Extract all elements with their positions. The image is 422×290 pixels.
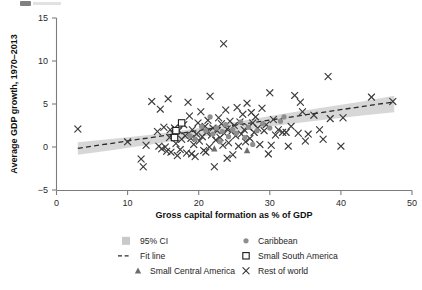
- data-point: [268, 142, 274, 148]
- data-point: [281, 114, 286, 119]
- data-point: [234, 131, 239, 136]
- x-tick-label: 10: [123, 198, 133, 208]
- data-point: [154, 128, 160, 134]
- data-point: [168, 149, 174, 155]
- legend-label: Fit line: [140, 251, 166, 261]
- data-point: [259, 105, 265, 111]
- y-tick-label: 0: [43, 142, 48, 152]
- data-point: [211, 164, 217, 170]
- data-point: [157, 106, 163, 112]
- data-point: [186, 113, 192, 119]
- data-point: [178, 120, 184, 126]
- circle-marker-icon: [243, 238, 248, 243]
- data-point: [211, 145, 217, 151]
- data-point: [267, 125, 272, 130]
- data-point: [297, 99, 303, 105]
- y-axis-title: Average GDP growth, 1970–2013: [9, 34, 19, 174]
- data-point: [292, 92, 298, 98]
- data-point: [210, 132, 215, 137]
- data-point: [265, 151, 271, 157]
- data-point: [288, 123, 294, 129]
- open-square-marker-icon: [243, 253, 249, 259]
- data-point: [235, 143, 241, 149]
- y-tick-label: 15: [38, 13, 48, 23]
- ci-swatch-icon: [122, 237, 130, 245]
- legend-label: Caribbean: [258, 236, 298, 246]
- data-point: [173, 140, 179, 146]
- data-point: [240, 111, 246, 117]
- chart-figure: 01020304050−5051015 Gross capital format…: [0, 0, 422, 290]
- x-tick-label: 0: [54, 198, 59, 208]
- data-point: [75, 126, 81, 132]
- legend-item-95-ci[interactable]: 95% CI: [122, 236, 168, 246]
- data-point: [283, 129, 289, 135]
- legend-item-rest-of-world[interactable]: Rest of world: [243, 266, 308, 276]
- legend-label: Rest of world: [258, 266, 308, 276]
- data-point: [198, 109, 204, 115]
- data-point: [285, 143, 291, 149]
- data-point: [260, 121, 265, 126]
- data-point: [193, 137, 198, 142]
- data-point: [220, 41, 226, 47]
- data-point: [203, 128, 208, 133]
- data-point: [295, 130, 301, 136]
- data-point: [161, 124, 167, 130]
- x-tick-label: 20: [194, 198, 204, 208]
- data-point: [214, 125, 219, 130]
- data-point: [174, 153, 180, 159]
- data-point: [185, 99, 191, 105]
- data-point: [246, 125, 251, 130]
- data-point: [171, 134, 177, 140]
- data-point: [140, 164, 146, 170]
- data-point: [244, 100, 250, 106]
- x-tick-label: 50: [407, 198, 417, 208]
- data-point: [305, 131, 311, 137]
- data-point: [254, 128, 259, 133]
- data-point: [188, 151, 194, 157]
- y-tick-label: 5: [43, 99, 48, 109]
- data-point: [207, 114, 212, 119]
- data-point: [220, 129, 225, 134]
- data-point: [247, 135, 253, 141]
- legend-item-small-south-america[interactable]: Small South America: [243, 251, 338, 261]
- data-point: [207, 93, 213, 99]
- data-point: [244, 147, 250, 153]
- data-point: [192, 153, 198, 159]
- data-point: [316, 127, 322, 133]
- x-tick-label: 40: [336, 198, 346, 208]
- data-point: [242, 135, 247, 140]
- data-point: [226, 134, 231, 139]
- data-point: [217, 139, 222, 144]
- triangle-marker-icon: [135, 267, 141, 273]
- data-point: [257, 141, 263, 147]
- chart-legend: 95% CICaribbeanFit lineSmall South Ameri…: [118, 236, 338, 276]
- data-point: [223, 107, 229, 113]
- legend-item-fit-line[interactable]: Fit line: [118, 251, 166, 261]
- data-point: [173, 127, 179, 133]
- data-point: [149, 98, 155, 104]
- legend-label: Small Central America: [150, 266, 235, 276]
- data-point: [250, 142, 255, 147]
- scatter-chart: 01020304050−5051015 Gross capital format…: [0, 0, 422, 290]
- y-tick-label: −5: [38, 185, 48, 195]
- data-point: [278, 119, 283, 124]
- data-point: [267, 90, 273, 96]
- data-point: [225, 140, 231, 146]
- legend-label: 95% CI: [140, 236, 168, 246]
- data-point: [188, 133, 193, 138]
- scan-artifact-secondary: [33, 2, 61, 5]
- data-point: [320, 136, 326, 142]
- data-point: [238, 119, 243, 124]
- data-point: [234, 104, 240, 110]
- legend-item-caribbean[interactable]: Caribbean: [243, 236, 297, 246]
- x-marker-icon: [243, 268, 249, 274]
- data-point: [302, 138, 308, 144]
- data-point: [368, 94, 374, 100]
- data-point: [165, 96, 171, 102]
- data-point: [216, 115, 222, 121]
- legend-item-small-central-america[interactable]: Small Central America: [135, 266, 235, 276]
- data-point: [325, 73, 331, 79]
- x-axis-title: Gross capital formation as % of GDP: [155, 210, 312, 220]
- data-point: [199, 124, 204, 129]
- data-point: [338, 143, 344, 149]
